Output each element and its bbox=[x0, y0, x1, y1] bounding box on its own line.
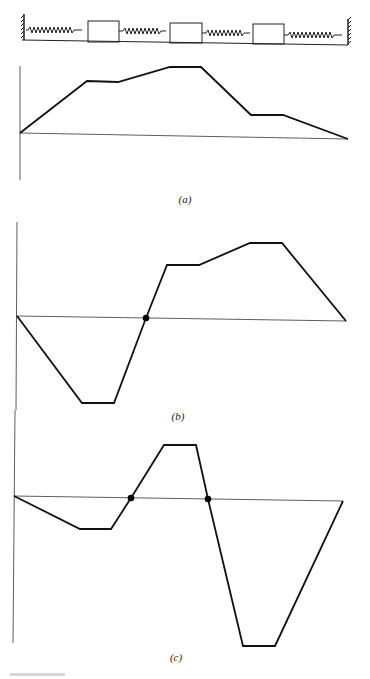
mass-2 bbox=[170, 23, 202, 43]
caption-a: (a) bbox=[179, 193, 192, 205]
baseline-a bbox=[20, 133, 348, 139]
left-wall bbox=[21, 14, 24, 40]
baseline-b bbox=[17, 316, 346, 321]
mass-3 bbox=[253, 24, 284, 44]
baseline-c bbox=[14, 496, 343, 501]
spring-1 bbox=[26, 27, 82, 33]
figure-label-fragment bbox=[10, 673, 65, 676]
mode-curve-b bbox=[17, 243, 346, 403]
mode-shape-c bbox=[13, 410, 343, 646]
spring-4 bbox=[284, 32, 342, 38]
mode-shape-figure bbox=[0, 0, 370, 679]
mode-curve-c bbox=[14, 445, 343, 646]
mode-shape-b bbox=[16, 222, 346, 410]
mode-shape-a bbox=[20, 66, 348, 180]
spring-3 bbox=[202, 30, 250, 36]
y-axis-c bbox=[13, 410, 15, 643]
spring-2 bbox=[119, 28, 166, 34]
node-point-c-2 bbox=[205, 496, 212, 503]
node-point-c-1 bbox=[128, 495, 135, 502]
caption-c: (c) bbox=[170, 651, 182, 663]
node-point-b-1 bbox=[143, 315, 150, 322]
spring-mass-system bbox=[21, 14, 351, 45]
caption-b: (b) bbox=[172, 410, 185, 422]
mode-curve-a bbox=[20, 67, 348, 139]
mass-1 bbox=[88, 21, 119, 42]
right-wall bbox=[348, 17, 351, 45]
y-axis-b bbox=[16, 222, 17, 410]
